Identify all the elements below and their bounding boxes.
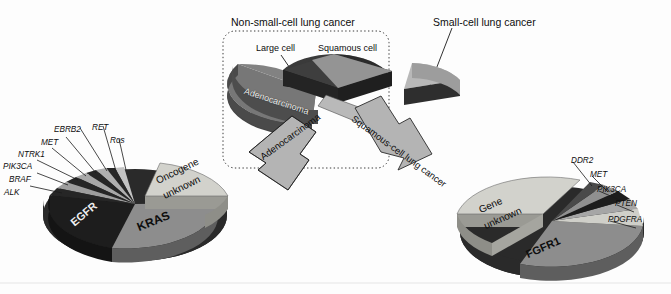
slice-small-cell-lung-cancer [404, 63, 460, 105]
gene-label-ddr2: DDR2 [571, 156, 593, 165]
gene-label-pdgfra: PDGFRA [608, 215, 642, 224]
gene-label-met: MET [590, 170, 607, 179]
gene-label-braf: BRAF [9, 175, 31, 184]
adenocarcinoma-pie-chart [30, 126, 228, 263]
gene-label-met: MET [41, 138, 58, 147]
lung-cancer-figure: Non-small-cell lung cancer Small-cell lu… [0, 0, 671, 294]
gene-label-pten: PTEN [615, 199, 637, 208]
large-cell-label: Large cell [256, 43, 295, 53]
gene-label-pik3ca: PIK3CA [3, 162, 32, 171]
gene-label-ros: Ros [110, 136, 125, 145]
gene-label-ebrb2: EBRB2 [54, 125, 81, 134]
squamous-cell-label: Squamous cell [318, 43, 377, 53]
sclc-title: Small-cell lung cancer [433, 16, 536, 28]
gene-label-ntrk1: NTRK1 [18, 150, 45, 159]
gene-label-ret: RET [92, 123, 108, 132]
nsclc-title: Non-small-cell lung cancer [231, 16, 355, 28]
gene-label-pik3ca: PIK3CA [597, 185, 626, 194]
gene-label-alk: ALK [4, 188, 19, 197]
